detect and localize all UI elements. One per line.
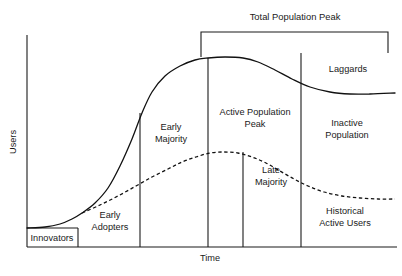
label-early-adopters-line2: Adopters: [92, 222, 129, 232]
label-laggards: Laggards: [329, 64, 368, 74]
label-inactive-population-line2: Population: [325, 130, 368, 140]
historical-active-users-curve: [82, 152, 395, 213]
x-axis-label: Time: [200, 253, 220, 263]
total-population-peak-label: Total Population Peak: [250, 11, 341, 22]
label-active-peak-line2: Peak: [245, 119, 266, 129]
adoption-curve-diagram: Users Time Total Population Peak Innovat…: [0, 0, 402, 276]
label-early-majority-line2: Majority: [155, 134, 188, 144]
label-historical-line1: Historical: [326, 206, 364, 216]
label-innovators: Innovators: [31, 233, 74, 243]
label-late-majority-line2: Majority: [255, 177, 288, 187]
chart-canvas: Users Time Total Population Peak Innovat…: [0, 0, 402, 276]
label-historical-line2: Active Users: [319, 218, 371, 228]
total-population-peak-bracket: [201, 32, 388, 57]
label-inactive-population-line1: Inactive: [331, 118, 363, 128]
label-active-peak-line1: Active Population: [220, 107, 291, 117]
label-late-majority-line1: Late: [262, 165, 280, 175]
label-early-majority-line1: Early: [161, 122, 182, 132]
total-population-curve: [27, 57, 395, 228]
label-early-adopters-line1: Early: [100, 210, 121, 220]
y-axis-label: Users: [8, 130, 18, 154]
